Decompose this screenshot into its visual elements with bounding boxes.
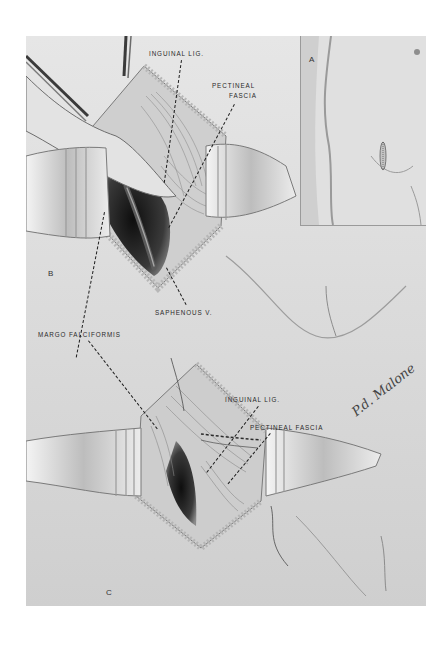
panel-c-letter: C xyxy=(106,589,112,597)
label-b-pectineal-fascia-line1: PECTINEAL xyxy=(212,83,255,89)
panel-a-body-drawing xyxy=(301,36,426,225)
panel-b-letter: B xyxy=(48,270,53,278)
label-c-margo-falciformis: MARGO FALCIFORMIS xyxy=(38,332,121,338)
illustration-plate: A INGUINAL LIG. PECTINEAL FASCIA SAPHENO… xyxy=(26,36,426,606)
panel-a-inset: A xyxy=(300,36,426,226)
panel-a-letter: A xyxy=(309,56,314,64)
label-b-pectineal-fascia-line2: FASCIA xyxy=(229,93,257,99)
label-c-pectineal-fascia: PECTINEAL FASCIA xyxy=(250,425,323,431)
label-b-saphenous-vein: SAPHENOUS V. xyxy=(155,310,212,316)
label-c-inguinal-ligament: INGUINAL LIG. xyxy=(225,397,280,403)
label-b-inguinal-ligament: INGUINAL LIG. xyxy=(149,51,204,57)
